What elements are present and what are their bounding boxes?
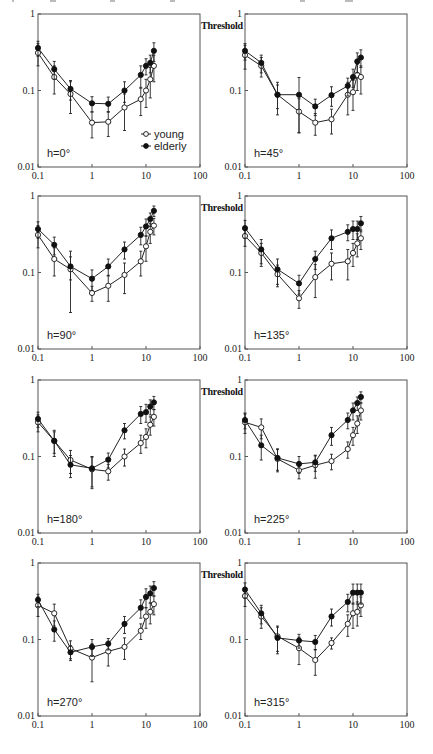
filled-circle-marker-icon <box>106 264 111 269</box>
x-tick-label: 1 <box>90 352 95 363</box>
filled-circle-marker-icon <box>143 410 148 415</box>
open-circle-marker-icon <box>122 272 127 277</box>
y-tick-label: 0.1 <box>230 634 243 645</box>
panel-label: h=90° <box>47 329 76 341</box>
series-young <box>35 218 156 312</box>
plot-frame <box>245 563 407 716</box>
filled-circle-marker-icon <box>350 408 355 413</box>
filled-circle-marker-icon <box>355 400 360 405</box>
x-tick-label: 10 <box>348 352 358 363</box>
filled-circle-marker-icon <box>275 267 280 272</box>
legend-label: young <box>154 128 184 140</box>
filled-circle-marker-icon <box>242 48 247 53</box>
filled-circle-marker-icon <box>355 226 360 231</box>
series-elderly <box>242 44 363 133</box>
open-circle-marker-icon <box>106 283 111 288</box>
open-circle-marker-icon <box>329 261 334 266</box>
open-circle-marker-icon <box>355 421 360 426</box>
filled-circle-marker-icon <box>329 614 334 619</box>
x-tick-label: 10 <box>141 536 151 547</box>
y-axis-label: Threshold <box>201 20 243 31</box>
filled-circle-marker-icon <box>259 247 264 252</box>
filled-circle-marker-icon <box>68 650 73 655</box>
chart-panel: 0.11101000.010.11h=90° <box>18 190 208 363</box>
filled-circle-marker-icon <box>68 86 73 91</box>
filled-circle-marker-icon <box>68 462 73 467</box>
open-circle-marker-icon <box>143 434 148 439</box>
filled-circle-marker-icon <box>275 92 280 97</box>
plot-frame <box>38 380 200 533</box>
chart-panel: 0.11101000.010.11h=315° <box>225 557 415 730</box>
filled-circle-marker-icon <box>89 466 94 471</box>
x-tick-label: 100 <box>400 352 415 363</box>
open-circle-marker-icon <box>358 236 363 241</box>
y-tick-label: 0.1 <box>230 451 243 462</box>
x-tick-label: 1 <box>90 536 95 547</box>
open-circle-marker-icon <box>350 250 355 255</box>
x-tick-label: 100 <box>193 170 208 181</box>
open-circle-marker-icon <box>350 90 355 95</box>
plot-frame <box>245 14 407 167</box>
panel-label: h=0° <box>47 147 70 159</box>
filled-circle-marker-icon <box>52 438 57 443</box>
open-circle-marker-icon <box>329 640 334 645</box>
filled-circle-marker-icon <box>52 627 57 632</box>
series-elderly <box>35 582 156 661</box>
filled-circle-marker-icon <box>35 416 40 421</box>
open-circle-marker-icon <box>52 611 57 616</box>
series-young <box>35 44 156 138</box>
filled-circle-marker-icon <box>148 60 153 65</box>
series-young <box>242 228 363 308</box>
y-tick-label: 0.1 <box>23 634 36 645</box>
open-circle-marker-icon <box>151 223 156 228</box>
x-tick-label: 1 <box>297 352 302 363</box>
filled-circle-marker-icon <box>275 455 280 460</box>
y-tick-label: 0.01 <box>225 161 243 172</box>
filled-circle-marker-icon <box>350 74 355 79</box>
filled-circle-marker-icon <box>122 247 127 252</box>
filled-circle-marker-icon <box>358 590 363 595</box>
filled-circle-marker-icon <box>138 605 143 610</box>
filled-circle-marker-icon <box>259 611 264 616</box>
y-tick-label: 1 <box>30 8 35 19</box>
open-circle-marker-icon <box>138 97 143 102</box>
open-circle-marker-icon <box>313 657 318 662</box>
filled-circle-marker-icon <box>275 635 280 640</box>
panel-label: h=225° <box>254 513 289 525</box>
x-tick-label: 100 <box>193 352 208 363</box>
x-tick-label: 1 <box>90 170 95 181</box>
filled-circle-marker-icon <box>296 281 301 286</box>
x-tick-label: 1 <box>297 719 302 730</box>
y-tick-label: 0.1 <box>23 267 36 278</box>
open-circle-marker-icon <box>122 105 127 110</box>
filled-circle-marker-icon <box>358 221 363 226</box>
open-circle-marker-icon <box>143 614 148 619</box>
x-tick-label: 1 <box>297 536 302 547</box>
open-circle-marker-icon <box>106 469 111 474</box>
open-circle-marker-icon <box>122 644 127 649</box>
open-circle-marker-icon <box>151 602 156 607</box>
x-tick-label: 100 <box>193 536 208 547</box>
filled-circle-marker-icon <box>148 216 153 221</box>
filled-circle-marker-icon <box>329 433 334 438</box>
filled-circle-marker-icon <box>106 641 111 646</box>
y-tick-label: 1 <box>30 557 35 568</box>
open-circle-marker-icon <box>350 433 355 438</box>
open-circle-marker-icon <box>89 120 94 125</box>
open-circle-marker-icon <box>345 621 350 626</box>
open-circle-marker-icon <box>148 422 153 427</box>
open-circle-marker-icon <box>345 259 350 264</box>
y-tick-label: 1 <box>237 8 242 19</box>
filled-circle-marker-icon <box>148 591 153 596</box>
filled-circle-marker-icon <box>138 72 143 77</box>
filled-circle-marker-icon <box>143 224 148 229</box>
filled-circle-marker-icon <box>151 208 156 213</box>
y-tick-label: 0.01 <box>18 710 36 721</box>
filled-circle-marker-icon <box>313 639 318 644</box>
filled-circle-marker-icon <box>296 92 301 97</box>
open-circle-marker-icon <box>106 119 111 124</box>
filled-circle-marker-icon <box>151 48 156 53</box>
filled-circle-icon <box>144 144 149 149</box>
y-tick-label: 1 <box>237 374 242 385</box>
open-circle-marker-icon <box>313 275 318 280</box>
